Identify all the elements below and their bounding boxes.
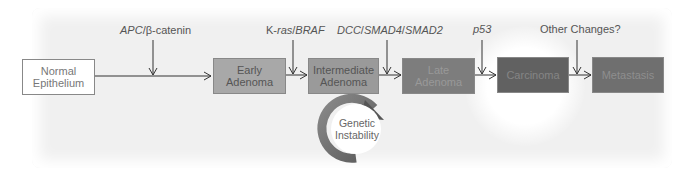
stage-metastasis: Metastasis (592, 57, 664, 93)
mutation-apc-label: APC/β-catenin (120, 24, 191, 36)
stage-label: Normal (41, 65, 76, 77)
mutation-kras-label: K-ras/BRAF (266, 24, 325, 36)
mutation-p53-label: p53 (473, 23, 491, 35)
gene-smad2: SMAD2 (405, 24, 443, 36)
gene-beta-catenin: β-catenin (146, 24, 191, 36)
stage-normal-epithelium: NormalEpithelium (22, 59, 95, 95)
stage-label: Late (428, 64, 449, 76)
gene-braf: BRAF (295, 24, 324, 36)
gene-dcc: DCC (337, 24, 361, 36)
genetic-instability-label: GeneticInstability (327, 117, 387, 141)
gene-smad4: SMAD4 (364, 24, 402, 36)
stage-label: Intermediate (313, 64, 374, 76)
stage-late-adenoma: LateAdenoma (402, 58, 475, 94)
stage-label: Adenoma (320, 76, 367, 88)
stage-label: Epithelium (33, 77, 84, 89)
stage-label: Metastasis (602, 69, 655, 81)
stage-label: Adenoma (226, 76, 273, 88)
stage-label: Adenoma (415, 76, 462, 88)
cycle-label: Genetic (339, 117, 375, 129)
mutation-dcc-label: DCC/SMAD4/SMAD2 (337, 24, 443, 36)
cycle-label: Instability (335, 129, 379, 141)
other-changes-text: Other Changes? (540, 23, 621, 35)
stage-label: Early (237, 64, 262, 76)
stage-intermediate-adenoma: IntermediateAdenoma (308, 58, 379, 94)
stage-carcinoma: Carcinoma (497, 57, 569, 93)
stage-early-adenoma: EarlyAdenoma (213, 58, 286, 94)
gene-ras: ras (277, 24, 292, 36)
gene-apc: APC (120, 24, 143, 36)
mutation-other-label: Other Changes? (540, 23, 621, 35)
gene-k-prefix: K- (266, 24, 277, 36)
stage-label: Carcinoma (506, 69, 559, 81)
gene-p53: p53 (473, 23, 491, 35)
